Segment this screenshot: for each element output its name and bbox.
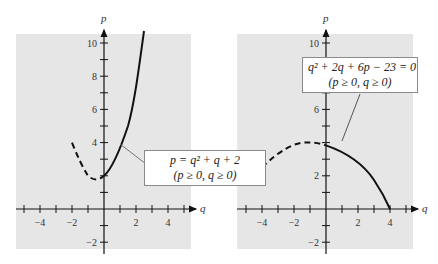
- left-chart: −4 −2 2 4 10 8 6 4 −2 q p: [16, 12, 206, 254]
- right-domain-condition: (p ≥ 0, q ≥ 0): [308, 75, 412, 90]
- right-p-tick-label: −2: [308, 237, 319, 248]
- right-q-tick-label: −4: [257, 217, 268, 228]
- left-p-tick-label: 10: [87, 38, 97, 49]
- right-q-axis-label: q: [422, 202, 428, 214]
- right-p-tick-label: 2: [314, 170, 319, 181]
- right-p-tick-label: 6: [314, 104, 319, 115]
- right-q-tick-label: 4: [388, 217, 393, 228]
- right-q-tick-label: 2: [356, 217, 361, 228]
- left-equation: p = q² + q + 2: [150, 153, 260, 168]
- left-domain-condition: (p ≥ 0, q ≥ 0): [150, 168, 260, 183]
- left-q-tick-label: −4: [35, 217, 46, 228]
- right-p-axis-label: p: [322, 12, 329, 24]
- left-q-tick-label: 2: [134, 217, 139, 228]
- left-p-tick-label: 8: [92, 71, 97, 82]
- right-chart: −4 −2 2 4 10 6 2 −2 q p: [237, 12, 428, 254]
- left-q-axis-label: q: [200, 202, 206, 214]
- left-p-tick-label: 4: [92, 137, 97, 148]
- right-equation: q² + 2q + 6p − 23 = 0: [308, 60, 412, 75]
- left-q-tick-label: 4: [166, 217, 171, 228]
- left-p-tick-label: 6: [92, 104, 97, 115]
- right-p-tick-label: 10: [309, 38, 319, 49]
- figure: −4 −2 2 4 10 8 6 4 −2 q p: [0, 0, 438, 264]
- left-p-axis-label: p: [100, 12, 107, 24]
- left-equation-callout: p = q² + q + 2 (p ≥ 0, q ≥ 0): [144, 150, 266, 186]
- right-q-tick-label: −2: [289, 217, 300, 228]
- left-q-tick-label: −2: [67, 217, 78, 228]
- left-p-tick-label: −2: [86, 237, 97, 248]
- right-equation-callout: q² + 2q + 6p − 23 = 0 (p ≥ 0, q ≥ 0): [302, 57, 418, 93]
